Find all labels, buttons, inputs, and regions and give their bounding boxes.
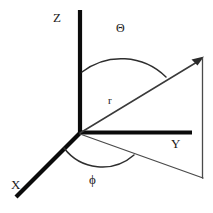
y-axis-label: Y bbox=[171, 137, 180, 150]
xy-projection-line bbox=[80, 134, 203, 178]
azimuthal-angle-label: ϕ bbox=[89, 173, 96, 186]
polar-angle-arc bbox=[82, 59, 166, 77]
radius-vector-label: r bbox=[108, 95, 112, 106]
radius-vector-line bbox=[80, 61, 200, 134]
spherical-coordinate-diagram: Z Y X Θ ϕ r bbox=[0, 0, 213, 213]
diagram-canvas bbox=[0, 0, 213, 213]
z-axis-label: Z bbox=[53, 11, 61, 24]
x-axis-label: X bbox=[11, 178, 20, 191]
polar-angle-label: Θ bbox=[116, 22, 125, 34]
azimuthal-angle-arc bbox=[64, 148, 134, 167]
x-axis-line bbox=[16, 132, 81, 197]
